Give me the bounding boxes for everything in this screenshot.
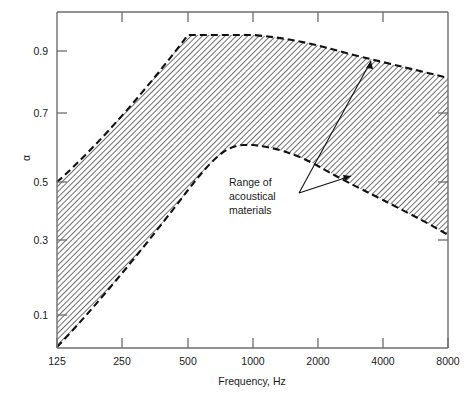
x-tick-label-2000: 2000 <box>306 355 330 367</box>
y-tick-label-0.9: 0.9 <box>33 45 48 57</box>
annotation-line-2: acoustical <box>229 190 276 202</box>
x-tick-label-4000: 4000 <box>371 355 395 367</box>
x-tick-label-8000: 8000 <box>436 355 460 367</box>
y-axis-title: α <box>20 155 32 161</box>
annotation-line-3: materials <box>229 204 272 216</box>
x-axis-title: Frequency, Hz <box>218 375 286 387</box>
chart-svg: 0.9 0.7 0.5 0.3 0.1 125 250 500 1000 200… <box>0 0 476 395</box>
y-tick-label-0.3: 0.3 <box>33 234 48 246</box>
y-tick-label-0.1: 0.1 <box>33 309 48 321</box>
y-tick-label-0.5: 0.5 <box>33 176 48 188</box>
y-tick-label-0.7: 0.7 <box>33 107 48 119</box>
annotation-label: Range of acoustical materials <box>229 176 276 216</box>
x-tick-label-1000: 1000 <box>241 355 265 367</box>
annotation-line-1: Range of <box>229 176 272 188</box>
x-tick-label-125: 125 <box>48 355 66 367</box>
acoustic-absorption-chart: 0.9 0.7 0.5 0.3 0.1 125 250 500 1000 200… <box>0 0 476 395</box>
x-tick-label-500: 500 <box>179 355 197 367</box>
x-tick-label-250: 250 <box>113 355 131 367</box>
